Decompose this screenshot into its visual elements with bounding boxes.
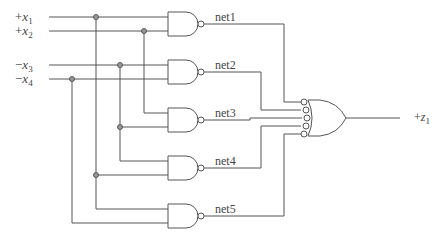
tap-wires xyxy=(72,17,168,223)
net2-label: net2 xyxy=(215,58,236,72)
logic-circuit: +x1 +x2 −x3 −x4 xyxy=(0,0,443,242)
net5-label: net5 xyxy=(215,202,236,216)
svg-text:+z1: +z1 xyxy=(414,110,430,126)
net-wires xyxy=(204,24,302,216)
net1-label: net1 xyxy=(215,10,236,24)
nand-gate-2 xyxy=(168,60,204,84)
nand-gate-4 xyxy=(168,156,204,180)
junction-dots xyxy=(70,15,147,178)
nand-gate-3 xyxy=(168,108,204,132)
output-label-z1: +z1 xyxy=(414,110,430,126)
net3-label: net3 xyxy=(215,106,236,120)
nand-gate-1 xyxy=(168,12,204,36)
nand-gate-5 xyxy=(168,204,204,228)
input-wires xyxy=(49,17,168,79)
or-gate-inverted-inputs xyxy=(301,99,346,137)
net4-label: net4 xyxy=(215,154,236,168)
